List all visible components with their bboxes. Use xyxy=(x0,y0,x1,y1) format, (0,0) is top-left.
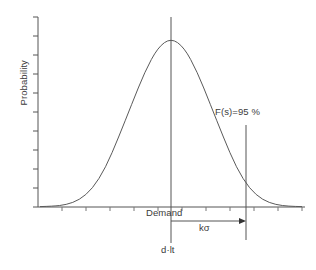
y-axis-label: Probability xyxy=(19,43,29,123)
demand-axis-label: Demand xyxy=(146,208,183,218)
safety-stock-arrowhead-icon xyxy=(239,218,246,224)
mean-demand-label: d·lt xyxy=(161,245,175,255)
y-axis-ticks xyxy=(33,17,38,207)
safety-stock-annotation-label: kσ xyxy=(199,223,210,233)
probability-distribution-figure: Probability F(s)=95 % Demand kσ d·lt xyxy=(0,0,316,270)
service-level-annotation-label: F(s)=95 % xyxy=(215,107,260,117)
chart-canvas xyxy=(0,0,316,270)
